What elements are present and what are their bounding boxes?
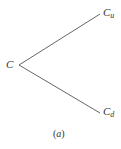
down-branch-line [19, 65, 100, 113]
up-node-label: Cu [103, 7, 114, 18]
root-node-label: C [6, 59, 13, 70]
up-branch-line [19, 14, 100, 65]
figure-caption: (a) [53, 129, 65, 139]
tree-branches [0, 0, 121, 149]
caption-close-paren: ) [61, 128, 64, 139]
up-node-subscript: u [110, 11, 114, 20]
binomial-tree-diagram: C Cu Cd (a) [0, 0, 121, 149]
root-symbol: C [6, 58, 13, 70]
down-node-subscript: d [110, 110, 114, 119]
down-node-label: Cd [103, 106, 114, 117]
